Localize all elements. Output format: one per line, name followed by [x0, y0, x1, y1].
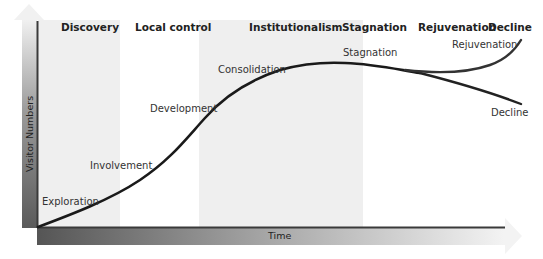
- stage-header-discovery: Discovery: [61, 21, 119, 33]
- label-development: Development: [150, 103, 217, 114]
- tourism-life-cycle-diagram: Discovery Local control Institutionalism…: [0, 0, 543, 259]
- label-consolidation: Consolidation: [218, 64, 286, 75]
- stage-header-institutionalism: Institutionalism: [249, 21, 343, 33]
- x-axis-label: Time: [268, 230, 291, 241]
- label-stagnation: Stagnation: [343, 47, 397, 58]
- stage-header-local-control: Local control: [135, 21, 211, 33]
- y-axis-label: Visitor Numbers: [24, 96, 35, 172]
- stage-header-stagnation: Stagnation: [342, 21, 407, 33]
- stage-header-rejuvenation: Rejuvenation: [418, 21, 496, 33]
- label-decline: Decline: [491, 107, 528, 118]
- decline-curve: [420, 73, 521, 104]
- stage-header-decline: Decline: [488, 21, 532, 33]
- label-involvement: Involvement: [90, 160, 152, 171]
- label-rejuvenation: Rejuvenation: [452, 39, 517, 50]
- label-exploration: Exploration: [42, 196, 99, 207]
